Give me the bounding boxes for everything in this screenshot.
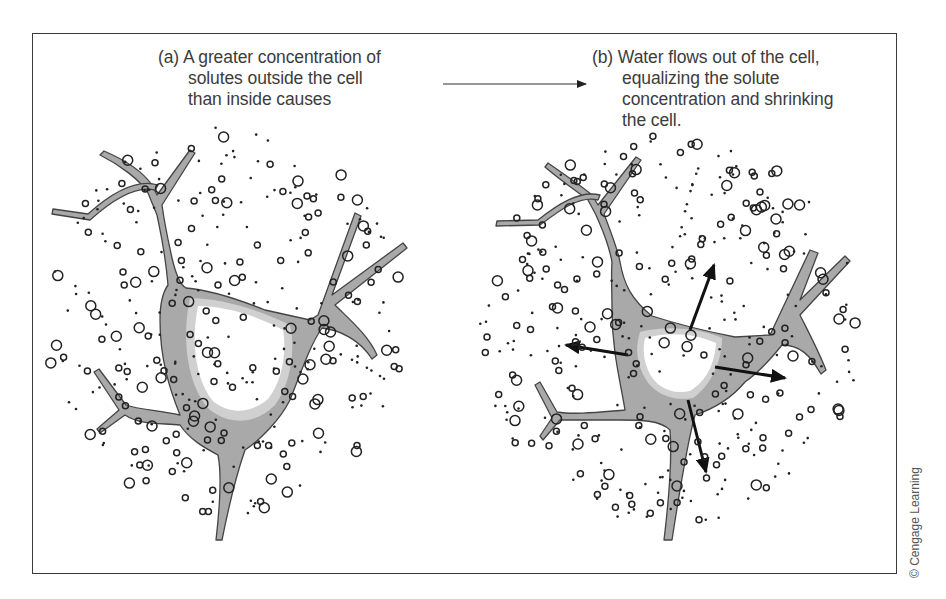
cell-illustration xyxy=(0,0,946,599)
neuron-cell-a xyxy=(52,150,407,540)
